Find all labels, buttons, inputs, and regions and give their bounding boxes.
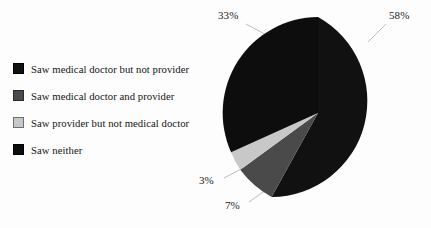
legend-swatch-icon [13, 144, 24, 155]
pie-chart-figure: 33% 58% 3% 7% Saw medical doctor but not… [0, 0, 431, 228]
legend-item-saw-medical-doctor-and-provider: Saw medical doctor and provider [13, 82, 213, 109]
legend-item-saw-neither: Saw neither [13, 136, 213, 163]
legend-item-label: Saw neither [31, 144, 82, 156]
leader-line-58 [368, 24, 386, 42]
legend-item-saw-medical-doctor-but-not-provider: Saw medical doctor but not provider [13, 55, 213, 82]
legend-item-label: Saw medical doctor and provider [31, 90, 174, 102]
pie-slice-saw-medical-doctor-but-not-provider [272, 17, 368, 197]
legend-swatch-icon [13, 63, 24, 74]
pie-slice-saw-medical-doctor-and-provider [240, 113, 318, 197]
leader-line-7 [249, 190, 266, 202]
chart-legend: Saw medical doctor but not provider Saw … [13, 55, 213, 163]
legend-swatch-icon [13, 117, 24, 128]
leader-line-3 [224, 168, 243, 178]
slice-label-saw-medical-doctor-and-provider: 7% [225, 199, 240, 211]
legend-item-saw-provider-but-not-medical-doctor: Saw provider but not medical doctor [13, 109, 213, 136]
leader-line-33 [246, 24, 272, 38]
slice-label-saw-neither: 33% [218, 9, 238, 21]
legend-item-label: Saw medical doctor but not provider [31, 63, 189, 75]
pie-slice-saw-provider-but-not-medical-doctor [231, 113, 318, 170]
legend-item-label: Saw provider but not medical doctor [31, 117, 189, 129]
legend-swatch-icon [13, 90, 24, 101]
slice-label-saw-provider-but-not-medical-doctor: 3% [199, 174, 214, 186]
slice-label-saw-medical-doctor-but-not-provider: 58% [389, 9, 409, 21]
pie-slice-saw-neither [223, 17, 318, 152]
